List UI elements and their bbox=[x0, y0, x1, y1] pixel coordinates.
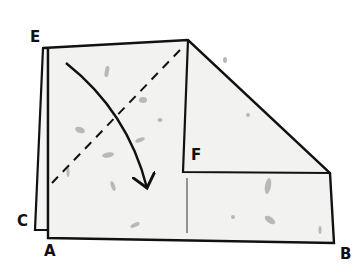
label-b: B bbox=[340, 247, 351, 262]
diagram-canvas bbox=[0, 0, 354, 280]
flap-c bbox=[35, 48, 48, 230]
label-a: A bbox=[44, 244, 56, 259]
label-f: F bbox=[191, 148, 201, 163]
label-c: C bbox=[17, 214, 28, 229]
paper-main bbox=[43, 40, 334, 243]
label-e: E bbox=[30, 30, 40, 45]
origami-diagram: E F C A B bbox=[0, 0, 354, 280]
